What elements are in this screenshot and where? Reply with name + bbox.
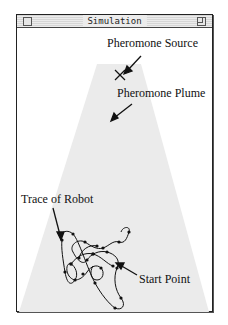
start-point-label: Start Point	[139, 272, 190, 287]
simulation-canvas: Pheromone Source Pheromone Plume Trace o…	[17, 28, 212, 311]
trace-of-robot-label: Trace of Robot	[21, 192, 93, 207]
title-bar[interactable]: Simulation	[17, 15, 212, 28]
pheromone-source-label: Pheromone Source	[107, 36, 198, 51]
window-title: Simulation	[82, 15, 146, 27]
scene-graphic	[17, 28, 213, 312]
close-box-icon[interactable]	[23, 17, 32, 26]
pheromone-plume-label: Pheromone Plume	[117, 86, 205, 101]
zoom-box-icon[interactable]	[197, 17, 206, 26]
simulation-window: Simulation	[16, 14, 213, 312]
